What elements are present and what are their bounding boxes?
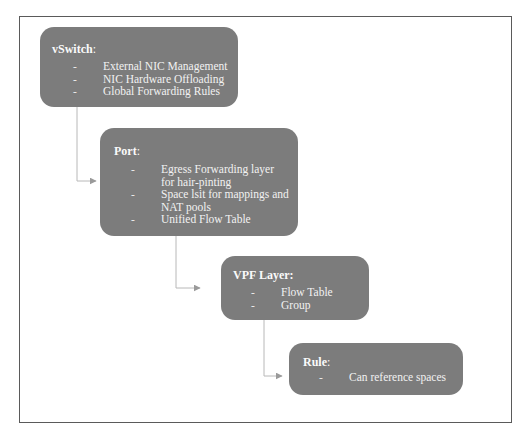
node-title: VPF Layer: xyxy=(233,269,294,282)
node-rule: Rule: -Can reference spaces xyxy=(289,343,463,395)
node-items: -External NIC Management -NIC Hardware O… xyxy=(65,60,228,98)
list-item: -Flow Table xyxy=(243,286,333,299)
node-port: Port: -Egress Forwarding layer for hair-… xyxy=(100,128,298,236)
list-item: -Can reference spaces xyxy=(311,371,446,384)
node-items: -Flow Table -Group xyxy=(243,286,333,311)
list-item: -External NIC Management xyxy=(65,60,228,73)
node-title: vSwitch: xyxy=(52,43,96,56)
node-vpf-layer: VPF Layer: -Flow Table -Group xyxy=(221,256,369,320)
list-item: -Global Forwarding Rules xyxy=(65,85,228,98)
node-vswitch: vSwitch: -External NIC Management -NIC H… xyxy=(40,27,238,107)
list-item: -Space lsit for mappings and NAT pools xyxy=(123,188,293,213)
list-item: -Unified Flow Table xyxy=(123,213,293,226)
list-item: -Egress Forwarding layer for hair-pintin… xyxy=(123,163,293,188)
node-items: -Can reference spaces xyxy=(311,371,446,384)
list-item: -NIC Hardware Offloading xyxy=(65,73,228,86)
node-title: Port: xyxy=(114,145,140,158)
list-item: -Group xyxy=(243,299,333,312)
node-items: -Egress Forwarding layer for hair-pintin… xyxy=(123,163,293,226)
node-title: Rule: xyxy=(303,356,330,369)
